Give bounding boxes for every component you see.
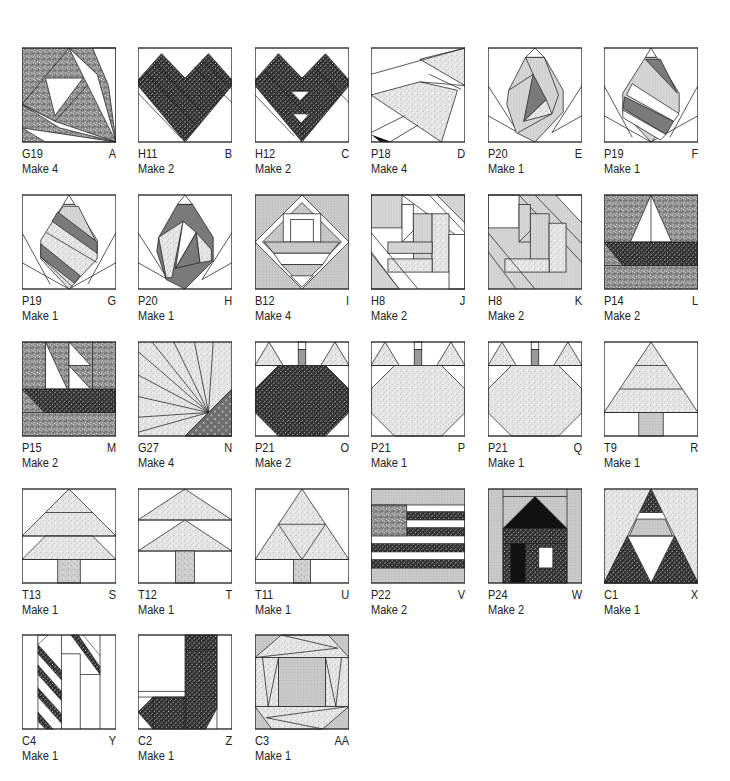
- block-caption: P21 Q Make 1: [488, 441, 582, 471]
- quilt-block-r: T9 R Make 1: [604, 341, 700, 471]
- block-letter: N: [224, 441, 232, 456]
- quilt-block-q: P21 Q Make 1: [488, 341, 584, 471]
- tree-triangles-diagram: [255, 488, 349, 584]
- make-quantity: Make 2: [371, 603, 407, 618]
- quilt-block-n: G27 N Make 4: [138, 341, 234, 471]
- block-letter: D: [457, 147, 465, 162]
- log-cabin-diagonal-diagram: [488, 194, 582, 290]
- tulip-striped-diagram: [604, 47, 698, 143]
- candy-cane-diagram: [22, 634, 116, 730]
- block-caption: T9 R Make 1: [604, 441, 698, 471]
- make-quantity: Make 2: [22, 456, 58, 471]
- block-caption: C4 Y Make 1: [22, 734, 116, 764]
- make-quantity: Make 1: [488, 162, 524, 177]
- pattern-code: P18: [371, 147, 391, 162]
- block-letter: Z: [225, 734, 232, 749]
- twisted-frame-diagram: [255, 634, 349, 730]
- make-quantity: Make 1: [22, 603, 58, 618]
- block-letter: K: [575, 294, 582, 309]
- pumpkin-dark-diagram: [255, 341, 349, 437]
- make-quantity: Make 1: [138, 309, 174, 324]
- block-caption: T12 T Make 1: [138, 588, 232, 618]
- block-caption: T13 S Make 1: [22, 588, 116, 618]
- pattern-code: G19: [22, 147, 43, 162]
- block-letter: A: [109, 147, 116, 162]
- block-letter: Y: [109, 734, 116, 749]
- block-letter: T: [225, 588, 232, 603]
- pattern-code: P21: [488, 441, 508, 456]
- tree-three-tier-diagram: [604, 341, 698, 437]
- make-quantity: Make 1: [604, 456, 640, 471]
- block-letter: H: [224, 294, 232, 309]
- quilt-block-f: P19 F Make 1: [604, 47, 700, 177]
- block-letter: AA: [334, 734, 349, 749]
- block-caption: P22 V Make 2: [371, 588, 465, 618]
- quilt-block-i: B12 I Make 4: [255, 194, 351, 324]
- block-caption: H12 C Make 2: [255, 147, 349, 177]
- block-caption: P20 H Make 1: [138, 294, 232, 324]
- pattern-code: P20: [488, 147, 508, 162]
- quilt-block-o: P21 O Make 2: [255, 341, 351, 471]
- block-letter: V: [458, 588, 465, 603]
- heart-with-gaps-diagram: [255, 47, 349, 143]
- block-caption: P24 W Make 2: [488, 588, 582, 618]
- stocking-diagram: [138, 634, 232, 730]
- block-letter: L: [692, 294, 698, 309]
- make-quantity: Make 2: [371, 309, 407, 324]
- sunburst-diagram: [138, 341, 232, 437]
- pattern-code: P19: [22, 294, 42, 309]
- make-quantity: Make 1: [255, 603, 291, 618]
- tree-two-tier-flat-diagram: [138, 488, 232, 584]
- make-quantity: Make 2: [604, 309, 640, 324]
- block-letter: M: [107, 441, 116, 456]
- triangle-tree-diagram: [604, 488, 698, 584]
- block-caption: C1 X Make 1: [604, 588, 698, 618]
- block-letter: Q: [574, 441, 583, 456]
- pattern-code: C2: [138, 734, 152, 749]
- quilt-block-s: T13 S Make 1: [22, 488, 118, 618]
- pattern-code: C4: [22, 734, 36, 749]
- pattern-code: T11: [255, 588, 273, 603]
- basket-diamond-diagram: [255, 194, 349, 290]
- block-caption: C2 Z Make 1: [138, 734, 232, 764]
- quilt-block-h: P20 H Make 1: [138, 194, 234, 324]
- heart-diagram: [138, 47, 232, 143]
- block-letter: G: [108, 294, 117, 309]
- block-caption: P19 G Make 1: [22, 294, 116, 324]
- block-letter: I: [346, 294, 349, 309]
- block-caption: P20 E Make 1: [488, 147, 582, 177]
- make-quantity: Make 1: [138, 603, 174, 618]
- block-letter: O: [341, 441, 350, 456]
- block-caption: P14 L Make 2: [604, 294, 698, 324]
- pattern-code: P22: [371, 588, 391, 603]
- quilt-block-y: C4 Y Make 1: [22, 634, 118, 764]
- fan-flower-diagram: [22, 47, 116, 143]
- pattern-code: C3: [255, 734, 269, 749]
- sailboat-diagram: [604, 194, 698, 290]
- pattern-code: P20: [138, 294, 158, 309]
- block-letter: B: [225, 147, 232, 162]
- block-caption: P18 D Make 4: [371, 147, 465, 177]
- pattern-code: G27: [138, 441, 159, 456]
- make-quantity: Make 1: [22, 749, 58, 764]
- make-quantity: Make 4: [255, 309, 291, 324]
- block-letter: F: [691, 147, 698, 162]
- make-quantity: Make 1: [22, 309, 58, 324]
- block-letter: S: [109, 588, 116, 603]
- tree-two-tier-tall-diagram: [22, 488, 116, 584]
- make-quantity: Make 2: [488, 603, 524, 618]
- block-caption: H8 K Make 2: [488, 294, 582, 324]
- quilt-block-b: H11 B Make 2: [138, 47, 234, 177]
- pattern-code: T13: [22, 588, 41, 603]
- pattern-code: P19: [604, 147, 624, 162]
- block-caption: H8 J Make 2: [371, 294, 465, 324]
- pattern-code: P15: [22, 441, 42, 456]
- block-caption: G19 A Make 4: [22, 147, 116, 177]
- pattern-code: P21: [255, 441, 275, 456]
- make-quantity: Make 4: [22, 162, 58, 177]
- pattern-code: P14: [604, 294, 624, 309]
- make-quantity: Make 1: [488, 456, 524, 471]
- quilt-block-x: C1 X Make 1: [604, 488, 700, 618]
- block-letter: J: [460, 294, 466, 309]
- block-caption: P15 M Make 2: [22, 441, 116, 471]
